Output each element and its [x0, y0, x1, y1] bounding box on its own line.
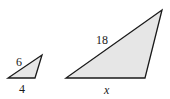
small-triangle-base-label-4: 4 — [19, 82, 25, 96]
small-triangle — [8, 55, 42, 78]
large-triangle — [66, 10, 162, 78]
small-triangle-side-label-6: 6 — [16, 55, 22, 69]
similar-triangles-diagram: 6 4 18 x — [0, 0, 170, 99]
large-triangle-side-label-18: 18 — [96, 33, 108, 47]
diagram-svg: 6 4 18 x — [0, 0, 170, 99]
large-triangle-base-label-x: x — [103, 83, 110, 97]
